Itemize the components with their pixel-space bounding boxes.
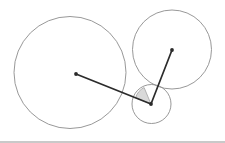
upper-right-circle-center-point <box>170 48 174 52</box>
figure-canvas <box>0 0 225 143</box>
baseline-rule <box>0 141 225 143</box>
geometry-figure <box>0 0 225 143</box>
vertex-point <box>149 102 153 106</box>
large-circle-center-point <box>74 72 78 76</box>
figure-background <box>0 0 225 143</box>
